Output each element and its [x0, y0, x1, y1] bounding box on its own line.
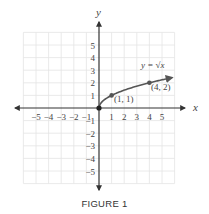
sqrt-function-graph: x y −5−4−3−2−112345 −5−4−3−2−112345 y = …	[0, 0, 209, 214]
x-tick-label: 3	[135, 112, 140, 122]
y-tick-label: 3	[91, 66, 96, 76]
y-tick-label: 4	[91, 53, 96, 63]
x-tick-label: 1	[109, 112, 114, 122]
x-tick-label: −5	[31, 112, 41, 122]
y-axis-label: y	[95, 6, 101, 18]
x-tick-label: 4	[147, 112, 152, 122]
y-tick-label: −5	[85, 167, 95, 177]
curve-label: y = √x	[140, 60, 165, 70]
y-tick-label: 2	[91, 78, 96, 88]
y-tick-label: −3	[85, 141, 95, 151]
data-point	[96, 105, 101, 110]
point-label-1-1: (1, 1)	[114, 94, 134, 104]
figure-caption: FIGURE 1	[0, 198, 209, 209]
point-label-4-2: (4, 2)	[151, 82, 171, 92]
y-tick-label: −1	[85, 116, 95, 126]
y-tick-label: −4	[85, 154, 95, 164]
y-tick-label: 5	[91, 41, 96, 51]
x-tick-label: 5	[160, 112, 165, 122]
x-tick-label: 2	[122, 112, 127, 122]
x-tick-label: −3	[56, 112, 66, 122]
x-tick-label: −2	[69, 112, 79, 122]
y-tick-label: 1	[91, 91, 96, 101]
x-axis-label: x	[192, 101, 198, 113]
x-tick-label: −4	[44, 112, 54, 122]
y-tick-label: −2	[85, 129, 95, 139]
